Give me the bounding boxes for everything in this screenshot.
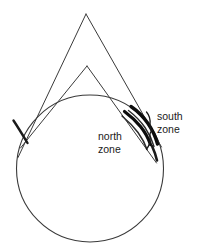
left-tangency-mark [14, 121, 28, 144]
south-zone-label-line2: zone [157, 123, 180, 135]
north-zone-label-line1: north [98, 130, 122, 142]
north-zone-label-line2: zone [98, 143, 121, 155]
south-zone-arc [131, 107, 158, 145]
north-zone-arc [125, 112, 151, 145]
outer-left-tangent-line [18, 14, 86, 158]
south-zone-label-line1: south [157, 110, 183, 122]
diagram-canvas: north zone south zone [0, 0, 203, 252]
inner-left-tangent-line [21, 66, 88, 148]
zone-diagram-svg: north zone south zone [0, 0, 203, 252]
